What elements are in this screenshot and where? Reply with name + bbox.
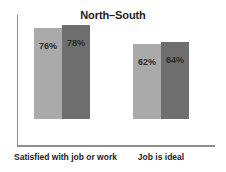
category-label-group1: Satisfied with job or work bbox=[14, 152, 110, 162]
bar-chart: North–South 76% 78% 62% 64% Satisfied wi… bbox=[0, 0, 226, 172]
plot-area: 76% 78% 62% 64% bbox=[0, 0, 226, 146]
value-label-group1-series2: 78% bbox=[62, 38, 90, 48]
value-label-group1-series1: 76% bbox=[34, 41, 62, 51]
category-label-group2: Job is ideal bbox=[129, 152, 193, 162]
value-label-group2-series1: 62% bbox=[133, 57, 161, 67]
value-label-group2-series2: 64% bbox=[161, 55, 189, 65]
bar-group2-series1[interactable] bbox=[133, 44, 161, 119]
bar-group2-series2[interactable] bbox=[161, 42, 189, 119]
